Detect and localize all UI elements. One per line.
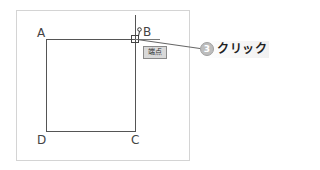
snap-tooltip: 端点 [143, 46, 167, 59]
pen-cursor-icon [138, 28, 142, 36]
vertex-label-d: D [37, 134, 46, 146]
step-number-badge: 3 [200, 42, 214, 56]
vertex-label-b: B [143, 26, 151, 38]
callout-action-text: クリック [217, 42, 267, 57]
vertex-label-a: A [37, 27, 45, 39]
vertex-label-c: C [131, 134, 139, 146]
square-abcd [47, 40, 136, 132]
